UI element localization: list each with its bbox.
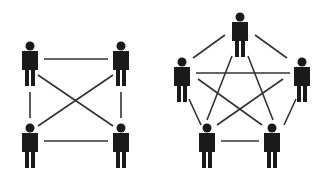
- person-head: [26, 42, 35, 51]
- person-body: [22, 133, 38, 152]
- person-leg: [235, 40, 239, 57]
- person-body: [199, 133, 215, 152]
- person-leg: [116, 151, 120, 168]
- person-body: [113, 133, 129, 152]
- person-leg: [267, 151, 271, 168]
- person-leg: [273, 151, 277, 168]
- network-diagram: [0, 0, 323, 183]
- person-body: [113, 51, 129, 70]
- person-head: [117, 42, 126, 51]
- person-leg: [122, 69, 126, 86]
- person-head: [203, 124, 212, 133]
- person-leg: [25, 151, 29, 168]
- person-head: [178, 58, 187, 67]
- person-body: [22, 51, 38, 70]
- person-leg: [31, 69, 35, 86]
- person-leg: [25, 69, 29, 86]
- person-leg: [31, 151, 35, 168]
- person-head: [298, 58, 307, 67]
- person-leg: [303, 85, 307, 102]
- person-head: [268, 124, 277, 133]
- person-leg: [122, 151, 126, 168]
- person-leg: [177, 85, 181, 102]
- person-head: [117, 124, 126, 133]
- person-head: [236, 13, 245, 22]
- person-leg: [208, 151, 212, 168]
- person-body: [174, 67, 190, 86]
- person-leg: [116, 69, 120, 86]
- person-head: [26, 124, 35, 133]
- person-leg: [202, 151, 206, 168]
- person-body: [232, 22, 248, 41]
- person-leg: [241, 40, 245, 57]
- person-leg: [183, 85, 187, 102]
- person-body: [294, 67, 310, 86]
- person-leg: [297, 85, 301, 102]
- person-body: [264, 133, 280, 152]
